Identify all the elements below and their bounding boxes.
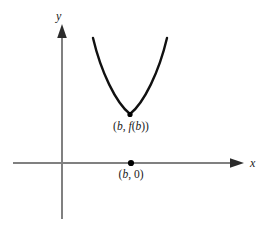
vertex-point: [127, 112, 132, 117]
parabola-curve: [93, 38, 167, 114]
coordinate-plot: [0, 0, 266, 227]
graph-figure: y x (b, f(b)) (b, 0): [0, 0, 266, 227]
x-intercept-point-label: (b, 0): [86, 169, 176, 181]
x-intercept-point: [128, 160, 134, 166]
y-axis-arrowhead: [57, 24, 67, 38]
vertex-point-label: (b, f(b)): [79, 121, 183, 133]
x-axis-arrowhead: [230, 158, 244, 168]
vertex-label-text: (b, f(b)): [113, 120, 149, 132]
root-label-text: (b, 0): [119, 168, 144, 180]
x-axis-label: x: [250, 157, 255, 169]
y-axis-label: y: [56, 10, 61, 22]
